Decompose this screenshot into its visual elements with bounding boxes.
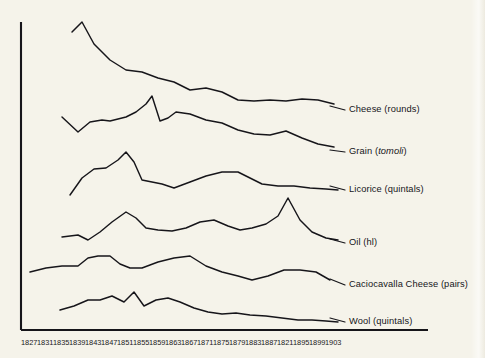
- series-line-cheese-rounds: [72, 22, 334, 104]
- series-line-caciocavalla-cheese-pairs: [30, 256, 330, 280]
- x-tick-1855-7: 1855: [133, 339, 149, 346]
- x-tick-1887-15: 1887: [261, 339, 277, 346]
- series-label-grain-tomoli: Grain (tomoli): [349, 147, 407, 156]
- series-line-wool-quintals: [60, 292, 338, 322]
- series-unit-italic: tomoli: [378, 146, 403, 156]
- x-tick-1875-12: 1875: [213, 339, 229, 346]
- x-tick-1895-17: 1895: [293, 339, 309, 346]
- x-tick-1831-1: 1831: [37, 339, 53, 346]
- series-label-licorice-quintals: Licorice (quintals): [349, 185, 424, 194]
- x-tick-1903-19: 1903: [325, 339, 341, 346]
- x-tick-1821-16: 1821: [277, 339, 293, 346]
- x-tick-1863-9: 1863: [165, 339, 181, 346]
- series-line-grain-tomoli: [62, 96, 334, 147]
- historical-exports-line-chart: Cheese (rounds)Grain (tomoli)Licorice (q…: [0, 0, 485, 358]
- x-tick-1879-13: 1879: [229, 339, 245, 346]
- series-line-oil-hl: [62, 198, 338, 240]
- x-tick-1839-3: 1839: [69, 339, 85, 346]
- x-tick-1883-14: 1883: [245, 339, 261, 346]
- chart-plot-area: [0, 0, 485, 358]
- x-tick-1835-2: 1835: [53, 339, 69, 346]
- series-label-wool-quintals: Wool (quintals): [349, 317, 412, 326]
- x-tick-1847-5: 1847: [101, 339, 117, 346]
- x-tick-1899-18: 1899: [309, 339, 325, 346]
- series-line-licorice-quintals: [70, 152, 338, 195]
- chart-series-group: [30, 22, 338, 322]
- chart-label-leaders: [330, 106, 345, 322]
- label-leader-cheese-rounds: [330, 106, 345, 110]
- x-tick-1827-0: 1827: [21, 339, 37, 346]
- x-tick-1843-4: 1843: [85, 339, 101, 346]
- x-tick-1867-10: 1867: [181, 339, 197, 346]
- label-leader-caciocavalla-cheese-pairs: [330, 279, 345, 285]
- x-tick-1859-8: 1859: [149, 339, 165, 346]
- series-label-cheese-rounds: Cheese (rounds): [349, 105, 420, 114]
- x-tick-1851-6: 1851: [117, 339, 133, 346]
- series-label-caciocavalla-cheese-pairs: Caciocavalla Cheese (pairs): [349, 280, 468, 289]
- series-label-oil-hl: Oil (hl): [349, 238, 377, 247]
- x-tick-1871-11: 1871: [197, 339, 213, 346]
- label-leader-grain-tomoli: [330, 150, 345, 152]
